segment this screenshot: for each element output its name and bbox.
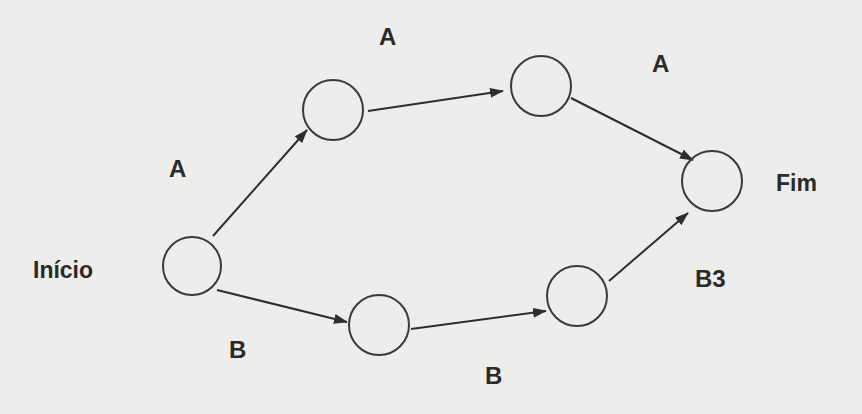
start-label: Início [33, 257, 93, 283]
edge-label-a2-end: A [652, 50, 669, 77]
edge-label-b2-end: B3 [695, 265, 726, 292]
edge-b2-to-end [609, 213, 688, 281]
edge-b1-to-b2 [411, 311, 546, 329]
node-a2 [511, 56, 571, 116]
edge-a1-to-a2 [368, 91, 503, 111]
node-a1 [303, 80, 363, 140]
end-label: Fim [776, 170, 817, 196]
edge-label-b1-b2: B [485, 362, 502, 389]
edge-a2-to-end [571, 98, 693, 160]
edge-label-a1-a2: A [379, 23, 396, 50]
node-end [682, 151, 742, 211]
edge-start-to-a1 [213, 130, 307, 236]
diagram-canvas: Início Fim A A A B B B3 [0, 0, 862, 414]
edge-label-start-a1: A [169, 155, 186, 182]
network-diagram: Início Fim A A A B B B3 [0, 0, 862, 414]
node-b1 [349, 295, 409, 355]
node-b2 [547, 266, 607, 326]
edge-label-start-b1: B [229, 336, 246, 363]
edge-start-to-b1 [217, 290, 347, 322]
node-start [163, 237, 221, 295]
